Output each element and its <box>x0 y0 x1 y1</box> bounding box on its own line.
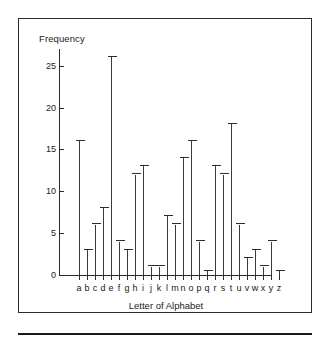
x-tick <box>175 275 176 280</box>
bar <box>191 141 192 275</box>
bar-cap <box>260 265 269 266</box>
bar <box>103 208 104 275</box>
x-tick <box>207 275 208 280</box>
bar-cap <box>76 140 85 141</box>
x-tick <box>79 275 80 280</box>
x-tick <box>167 275 168 280</box>
bar <box>199 242 200 275</box>
x-axis-title: Letter of Alphabet <box>19 300 313 311</box>
x-tick <box>247 275 248 280</box>
x-tick <box>183 275 184 280</box>
x-tick <box>87 275 88 280</box>
bar <box>215 166 216 275</box>
bar-cap <box>164 215 173 216</box>
bar-cap <box>252 249 261 250</box>
x-tick-label: z <box>274 283 284 293</box>
bar <box>127 250 128 275</box>
x-tick <box>215 275 216 280</box>
bar <box>135 175 136 275</box>
bar <box>183 158 184 275</box>
bottom-divider <box>18 333 312 335</box>
y-tick: 5 <box>59 233 64 234</box>
bar-cap <box>276 270 285 271</box>
bar-cap <box>108 56 117 57</box>
bar-cap <box>92 223 101 224</box>
bar-cap <box>100 207 109 208</box>
bar-cap <box>236 223 245 224</box>
bar-cap <box>116 240 125 241</box>
bar <box>279 271 280 275</box>
bar <box>111 57 112 275</box>
bar <box>207 271 208 275</box>
x-tick <box>255 275 256 280</box>
y-tick-label: 0 <box>51 270 59 280</box>
y-tick-label: 15 <box>46 144 59 154</box>
bar <box>247 258 248 275</box>
bar-cap <box>172 223 181 224</box>
bar-cap <box>212 165 221 166</box>
y-tick-label: 10 <box>46 186 59 196</box>
y-tick: 10 <box>59 191 64 192</box>
y-tick-label: 20 <box>46 103 59 113</box>
x-tick <box>119 275 120 280</box>
x-tick <box>159 275 160 280</box>
bar <box>175 225 176 275</box>
bar-cap <box>84 249 93 250</box>
bar <box>87 250 88 275</box>
x-tick <box>231 275 232 280</box>
bar <box>159 267 160 275</box>
bar <box>167 216 168 275</box>
bar <box>223 175 224 275</box>
bar <box>263 267 264 275</box>
bar-cap <box>156 265 165 266</box>
bar-cap <box>204 270 213 271</box>
bar-cap <box>180 157 189 158</box>
x-tick <box>271 275 272 280</box>
y-tick: 25 <box>59 66 64 67</box>
x-tick <box>103 275 104 280</box>
bar-cap <box>140 165 149 166</box>
y-axis-title: Frequency <box>39 33 85 44</box>
bar-cap <box>196 240 205 241</box>
y-tick: 20 <box>59 108 64 109</box>
frequency-chart: Frequency 0510152025 abcdefghijklmnopqrs… <box>19 19 313 314</box>
bar-cap <box>220 173 229 174</box>
x-tick <box>279 275 280 280</box>
y-axis-line <box>59 49 60 275</box>
x-tick <box>143 275 144 280</box>
x-tick <box>223 275 224 280</box>
x-tick <box>151 275 152 280</box>
x-tick <box>263 275 264 280</box>
bar <box>95 225 96 275</box>
bar <box>143 166 144 275</box>
bar-cap <box>244 257 253 258</box>
bar-cap <box>124 249 133 250</box>
bar-cap <box>268 240 277 241</box>
bar <box>239 225 240 275</box>
y-tick-label: 25 <box>46 61 59 71</box>
bar <box>119 242 120 275</box>
bar <box>79 141 80 275</box>
bar-cap <box>188 140 197 141</box>
x-tick <box>95 275 96 280</box>
x-tick <box>191 275 192 280</box>
bar-cap <box>228 123 237 124</box>
x-tick <box>111 275 112 280</box>
bar <box>271 242 272 275</box>
x-tick <box>127 275 128 280</box>
y-tick: 15 <box>59 149 64 150</box>
bar <box>255 250 256 275</box>
bar <box>231 124 232 275</box>
y-tick: 0 <box>59 275 64 276</box>
bar-cap <box>132 173 141 174</box>
figure-page: Frequency 0510152025 abcdefghijklmnopqrs… <box>0 0 330 346</box>
bar <box>151 267 152 275</box>
figure-frame: Frequency 0510152025 abcdefghijklmnopqrs… <box>18 18 312 313</box>
x-tick <box>135 275 136 280</box>
y-tick-label: 5 <box>51 228 59 238</box>
x-tick <box>199 275 200 280</box>
x-tick <box>239 275 240 280</box>
